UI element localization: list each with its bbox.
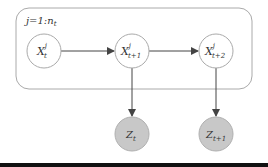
node-x-t2: Xjt+2 bbox=[199, 34, 233, 68]
node-x-t: Xjt bbox=[27, 34, 61, 68]
bottom-border-bar bbox=[0, 163, 268, 167]
node-z-t: Zt bbox=[115, 117, 149, 151]
node-x-t1: Xjt+1 bbox=[115, 34, 149, 68]
plate-label: j=1:nt bbox=[24, 15, 57, 28]
node-z-t1: Zt+1 bbox=[199, 117, 233, 151]
graphical-model-diagram: j=1:nt Xjt Xjt+1 Xjt+2 Zt Zt+1 bbox=[0, 0, 268, 167]
